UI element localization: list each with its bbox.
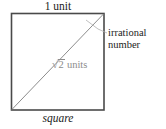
annotation-line-1: irrational	[108, 27, 146, 39]
irrational-number-annotation: irrational number	[108, 27, 146, 50]
radical-overbar	[58, 59, 65, 60]
radicand-value: 2	[59, 59, 64, 70]
radicand-group: 2	[58, 60, 64, 71]
diagram-canvas: 1 unit √2 units irrational number square	[0, 0, 166, 129]
top-side-length-label: 1 unit	[0, 1, 116, 13]
annotation-line-2: number	[108, 39, 146, 51]
diagonal-units-text: units	[64, 59, 87, 70]
diagonal-length-label: √2 units	[52, 59, 87, 71]
shape-name-label: square	[0, 113, 116, 125]
square-root-symbol-group: √2	[52, 59, 64, 71]
